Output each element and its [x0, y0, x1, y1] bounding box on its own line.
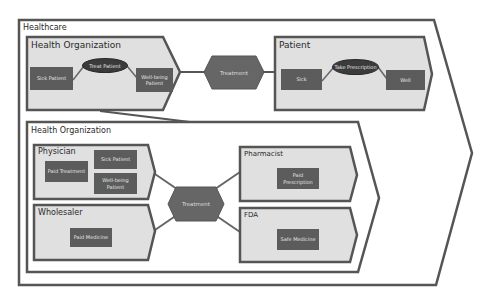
well-being-patient-box: Well-being Patient: [136, 68, 173, 92]
top-health-org-title: Health Organization: [31, 41, 121, 50]
sick-patient-box: Sick Patient: [30, 67, 73, 90]
healthcare-title: Healthcare: [23, 24, 67, 32]
treatment-label-center: Treatment: [168, 187, 224, 221]
fda-title: FDA: [244, 212, 258, 219]
patient-title: Patient: [279, 41, 310, 50]
sick-box: Sick: [281, 69, 322, 90]
paid-prescription-box: Paid Prescription: [277, 168, 319, 189]
safe-medicine-box: Safe Medicine: [277, 229, 319, 250]
physician-well-being-patient-box: Well-being Patient: [94, 173, 137, 194]
treat-patient-oval: Treat Patient: [82, 58, 128, 73]
treatment-label-top: Treatment: [204, 56, 264, 89]
paid-treatment-box: Paid Treatment: [45, 161, 88, 182]
inner-health-org-title: Health Organization: [31, 127, 111, 135]
well-box: Well: [386, 70, 425, 90]
wholesaler-title: Wholesaler: [38, 209, 83, 217]
physician-sick-patient-box: Sick Patient: [94, 150, 137, 169]
paid-medicine-box: Paid Medicine: [70, 228, 112, 247]
take-prescription-oval: Take Prescription: [332, 59, 379, 75]
physician-title: Physician: [38, 148, 76, 156]
pharmacist-title: Pharmacist: [244, 151, 283, 158]
